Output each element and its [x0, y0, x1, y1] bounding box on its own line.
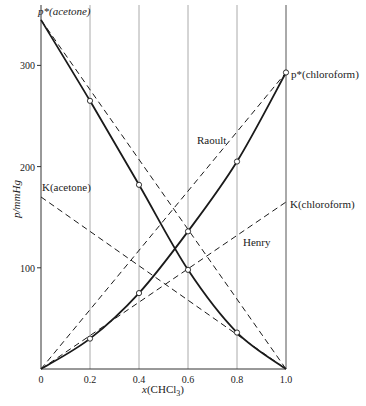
data-point-marker: [234, 159, 239, 164]
annotation-henry: Henry: [243, 236, 271, 248]
y-tick-label: 200: [20, 162, 35, 173]
x-tick-label: 0.2: [84, 374, 97, 385]
x-axis-label: x(CHCl3): [141, 383, 184, 398]
annotation-k-chloroform: K(chloroform): [290, 198, 355, 211]
data-point-marker: [136, 291, 141, 296]
data-point-marker: [185, 267, 190, 272]
x-tick-label: 1.0: [280, 374, 293, 385]
vapor-pressure-chart: 10020030000.20.40.60.81.0 p*(acetone) p*…: [0, 0, 366, 406]
x-tick-label: 0: [39, 374, 44, 385]
data-point-marker: [185, 229, 190, 234]
tick-labels: 10020030000.20.40.60.81.0: [20, 60, 292, 385]
x-tick-label: 0.8: [231, 374, 244, 385]
series-line: [41, 72, 286, 369]
data-point-marker: [234, 330, 239, 335]
data-point-marker: [283, 70, 288, 75]
annotation-pstar-acetone: p*(acetone): [37, 5, 91, 18]
annotation-raoult: Raoult: [197, 134, 226, 146]
series-line: [41, 197, 286, 369]
y-tick-label: 100: [20, 263, 35, 274]
annotation-pstar-chloroform: p*(chloroform): [291, 68, 359, 81]
data-point-marker: [87, 98, 92, 103]
series-line: [41, 20, 286, 369]
data-lines: [41, 20, 286, 369]
annotation-k-acetone: K(acetone): [42, 181, 91, 194]
data-point-marker: [87, 336, 92, 341]
data-point-marker: [136, 182, 141, 187]
y-tick-label: 300: [20, 60, 35, 71]
y-axis-label: p/mmHg: [10, 180, 22, 219]
